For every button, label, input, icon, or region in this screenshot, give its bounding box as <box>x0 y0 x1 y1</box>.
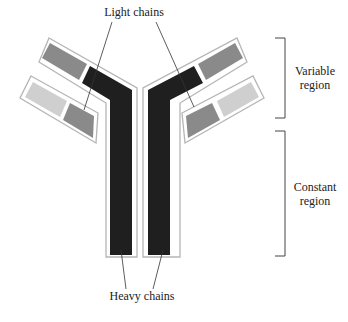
variable-region-label: Variable region <box>288 64 342 92</box>
variable-region-bracket <box>275 38 285 118</box>
constant-region-line2: region <box>288 194 342 208</box>
constant-region-label: Constant region <box>288 180 342 208</box>
light-chains-label: Light chains <box>104 5 164 19</box>
antibody-diagram <box>0 0 348 322</box>
variable-region-line1: Variable <box>288 64 342 78</box>
constant-region-bracket <box>275 131 285 256</box>
constant-region-line1: Constant <box>288 180 342 194</box>
variable-region-line2: region <box>288 78 342 92</box>
right-heavy-chain <box>143 38 247 257</box>
left-heavy-chain <box>39 38 137 257</box>
heavy-chains-label: Heavy chains <box>108 289 176 303</box>
